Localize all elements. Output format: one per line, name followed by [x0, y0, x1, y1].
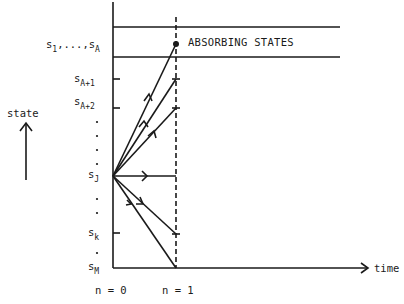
diagram-canvas: time ABSORBING STATES: [0, 0, 404, 304]
transition-to-sM: [113, 176, 176, 268]
transition-to-sk: [113, 176, 176, 234]
transition-to-sA1: [113, 79, 176, 176]
time-axis-label: time: [374, 262, 399, 274]
ellipsis-dot: [96, 135, 98, 137]
state-label-sM: sM: [88, 260, 99, 276]
ellipsis-dot: [96, 163, 98, 165]
transitions: [113, 41, 180, 268]
svg-text:s1,...,sA: s1,...,sA: [46, 38, 100, 54]
state-labels: s1,...,sA sA+1 sA+2 sJ sk sM: [46, 38, 100, 276]
ellipsis-dot: [96, 252, 98, 254]
state-label-sA1: sA+1: [74, 72, 95, 88]
time-axis: [113, 263, 368, 273]
absorbing-point: [173, 41, 179, 47]
state-axis-label: state: [7, 107, 39, 119]
transition-to-sA2: [113, 108, 176, 176]
state-label-sJ: sJ: [88, 168, 99, 184]
state-label-sk: sk: [88, 226, 99, 242]
up-arrow-icon: [20, 123, 32, 180]
state-label-sA2: sA+2: [74, 95, 95, 111]
time-step-0-label: n = 0: [95, 284, 127, 296]
time-step-1-label: n = 1: [162, 284, 194, 296]
state-label-s1-sA: s1,...,sA: [46, 38, 100, 54]
arrowhead-icon: [139, 121, 148, 127]
ellipsis-dot: [96, 149, 98, 151]
absorbing-states-label: ABSORBING STATES: [188, 36, 294, 48]
ellipsis-dot: [96, 198, 98, 200]
ellipsis-dot: [96, 121, 98, 123]
ellipsis-dot: [96, 212, 98, 214]
transition-to-absorbing: [113, 44, 176, 176]
